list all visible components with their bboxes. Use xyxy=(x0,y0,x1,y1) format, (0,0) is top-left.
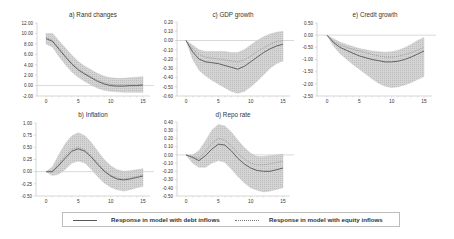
legend-label-equity: Response in model with equity inflows xyxy=(269,216,383,223)
panel-title: c) GDP growth xyxy=(212,11,254,19)
x-tick-label: 15 xyxy=(140,99,146,104)
x-tick-label: 5 xyxy=(77,199,80,204)
y-tick-label: 12.00 xyxy=(22,21,34,26)
legend: Response in model with debt inflows Resp… xyxy=(62,212,400,227)
y-tick-label: -0.40 xyxy=(163,75,174,80)
y-tick-label: 0.00 xyxy=(164,38,173,43)
y-tick-label: 2.00 xyxy=(24,73,33,78)
panel-e: e) Credit growth0.500.00-0.50-1.00-1.50-… xyxy=(303,11,436,104)
y-tick-label: -0.30 xyxy=(163,66,174,71)
x-tick-label: 0 xyxy=(326,99,329,104)
x-tick-label: 0 xyxy=(185,199,188,204)
x-tick-label: 5 xyxy=(358,99,361,104)
y-tick-label: -0.50 xyxy=(303,45,314,50)
x-tick-label: 10 xyxy=(248,99,254,104)
panel-title: d) Repo rate xyxy=(215,111,250,119)
x-tick-label: 5 xyxy=(77,99,80,104)
y-tick-label: 0.40 xyxy=(164,120,173,125)
confidence-band xyxy=(186,125,283,192)
y-tick-label: 0.00 xyxy=(24,83,33,88)
y-tick-label: 0.10 xyxy=(164,29,173,34)
y-tick-label: -0.20 xyxy=(163,57,174,62)
confidence-band xyxy=(327,35,424,87)
x-tick-label: 10 xyxy=(108,99,114,104)
x-tick-label: 0 xyxy=(45,199,48,204)
legend-dotted-line-swatch xyxy=(235,220,259,221)
panel-d: d) Repo rate0.400.300.200.100.00-0.10-0.… xyxy=(163,111,294,204)
y-tick-label: 0.10 xyxy=(164,144,173,149)
x-tick-label: 15 xyxy=(280,199,286,204)
y-tick-label: 4.00 xyxy=(24,63,33,68)
y-tick-label: 6.00 xyxy=(24,52,33,57)
y-tick-label: -0.40 xyxy=(163,186,174,191)
x-tick-label: 5 xyxy=(217,99,220,104)
y-tick-label: 8.00 xyxy=(24,42,33,47)
x-tick-label: 15 xyxy=(421,99,427,104)
y-tick-label: 1.00 xyxy=(23,121,32,126)
y-tick-label: 10.00 xyxy=(22,31,34,36)
y-tick-label: 0.00 xyxy=(164,153,173,158)
y-tick-label: -0.20 xyxy=(163,169,174,174)
y-tick-label: 0.75 xyxy=(23,133,32,138)
y-tick-label: 0.25 xyxy=(23,157,32,162)
x-tick-label: 0 xyxy=(185,99,188,104)
figure: a) Rand changes12.0010.008.006.004.002.0… xyxy=(0,0,454,239)
y-tick-label: 0.20 xyxy=(164,136,173,141)
y-tick-label: -0.50 xyxy=(163,194,174,199)
y-tick-label: 0.50 xyxy=(23,145,32,150)
y-tick-label: -0.10 xyxy=(163,161,174,166)
y-tick-label: 0.50 xyxy=(304,21,313,26)
x-tick-label: 10 xyxy=(389,99,395,104)
panel-title: a) Rand changes xyxy=(69,11,117,19)
y-tick-label: -0.10 xyxy=(163,48,174,53)
y-tick-label: 0.20 xyxy=(164,20,173,25)
panel-a: a) Rand changes12.0010.008.006.004.002.0… xyxy=(22,11,155,104)
y-tick-label: -0.60 xyxy=(163,94,174,99)
y-tick-label: -0.50 xyxy=(163,85,174,90)
y-tick-label: -2.00 xyxy=(23,94,34,99)
x-tick-label: 15 xyxy=(140,199,146,204)
y-tick-label: 0.00 xyxy=(304,33,313,38)
x-tick-label: 15 xyxy=(280,99,286,104)
x-tick-label: 10 xyxy=(108,199,114,204)
y-tick-label: -2.00 xyxy=(303,82,314,87)
y-tick-label: -0.50 xyxy=(22,194,33,199)
confidence-band xyxy=(46,33,143,92)
panel-title: b) Inflation xyxy=(78,111,108,119)
y-tick-label: 0.30 xyxy=(164,128,173,133)
x-tick-label: 0 xyxy=(45,99,48,104)
panel-b: b) Inflation1.000.750.500.250.00-0.25-0.… xyxy=(22,111,154,204)
y-tick-label: -1.50 xyxy=(303,69,314,74)
panel-c: c) GDP growth0.200.100.00-0.10-0.20-0.30… xyxy=(163,11,294,104)
y-tick-label: -0.30 xyxy=(163,177,174,182)
x-tick-label: 5 xyxy=(217,199,220,204)
x-tick-label: 10 xyxy=(248,199,254,204)
legend-solid-line-swatch xyxy=(73,220,97,221)
panel-title: e) Credit growth xyxy=(353,11,398,19)
y-tick-label: -0.25 xyxy=(22,182,33,187)
y-tick-label: -2.50 xyxy=(303,94,314,99)
y-tick-label: 0.00 xyxy=(23,169,32,174)
legend-label-debt: Response in model with debt inflows xyxy=(111,216,220,223)
y-tick-label: -1.00 xyxy=(303,57,314,62)
